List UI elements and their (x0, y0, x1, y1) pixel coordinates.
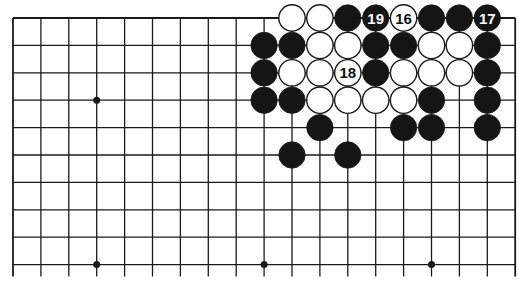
black-stone (390, 114, 416, 140)
black-stone (279, 87, 305, 113)
black-stone (446, 5, 472, 31)
black-stone: 17 (474, 5, 500, 31)
black-stone (335, 142, 361, 168)
black-stone (251, 87, 277, 113)
white-stone (335, 87, 361, 113)
white-stone (418, 32, 444, 58)
star-point (428, 261, 435, 268)
black-stone (363, 32, 389, 58)
white-stone: 18 (335, 60, 361, 86)
black-stone (474, 60, 500, 86)
white-stone (279, 60, 305, 86)
white-stone (390, 87, 416, 113)
white-stone (279, 5, 305, 31)
white-stone (390, 60, 416, 86)
black-stone (279, 142, 305, 168)
white-stone (363, 87, 389, 113)
black-stone (279, 32, 305, 58)
black-stone (418, 5, 444, 31)
white-stone (446, 32, 472, 58)
black-stone (474, 87, 500, 113)
black-stone (418, 114, 444, 140)
move-number-label: 16 (395, 10, 412, 27)
move-number-label: 19 (367, 10, 384, 27)
black-stone: 19 (363, 5, 389, 31)
white-stone (418, 60, 444, 86)
white-stone: 16 (390, 5, 416, 31)
star-point (93, 97, 100, 104)
black-stone (474, 114, 500, 140)
white-stone (307, 87, 333, 113)
black-stone (307, 114, 333, 140)
black-stone (363, 60, 389, 86)
black-stone (251, 32, 277, 58)
black-stone (474, 32, 500, 58)
white-stone (307, 5, 333, 31)
white-stone (307, 32, 333, 58)
move-number-label: 17 (479, 10, 496, 27)
move-number-label: 18 (339, 64, 356, 81)
black-stone (335, 5, 361, 31)
white-stone (335, 32, 361, 58)
black-stone (390, 32, 416, 58)
black-stone (251, 60, 277, 86)
star-point (261, 261, 268, 268)
black-stone (418, 87, 444, 113)
white-stone (446, 60, 472, 86)
go-board: 19161718 (0, 0, 519, 283)
star-point (93, 261, 100, 268)
white-stone (307, 60, 333, 86)
